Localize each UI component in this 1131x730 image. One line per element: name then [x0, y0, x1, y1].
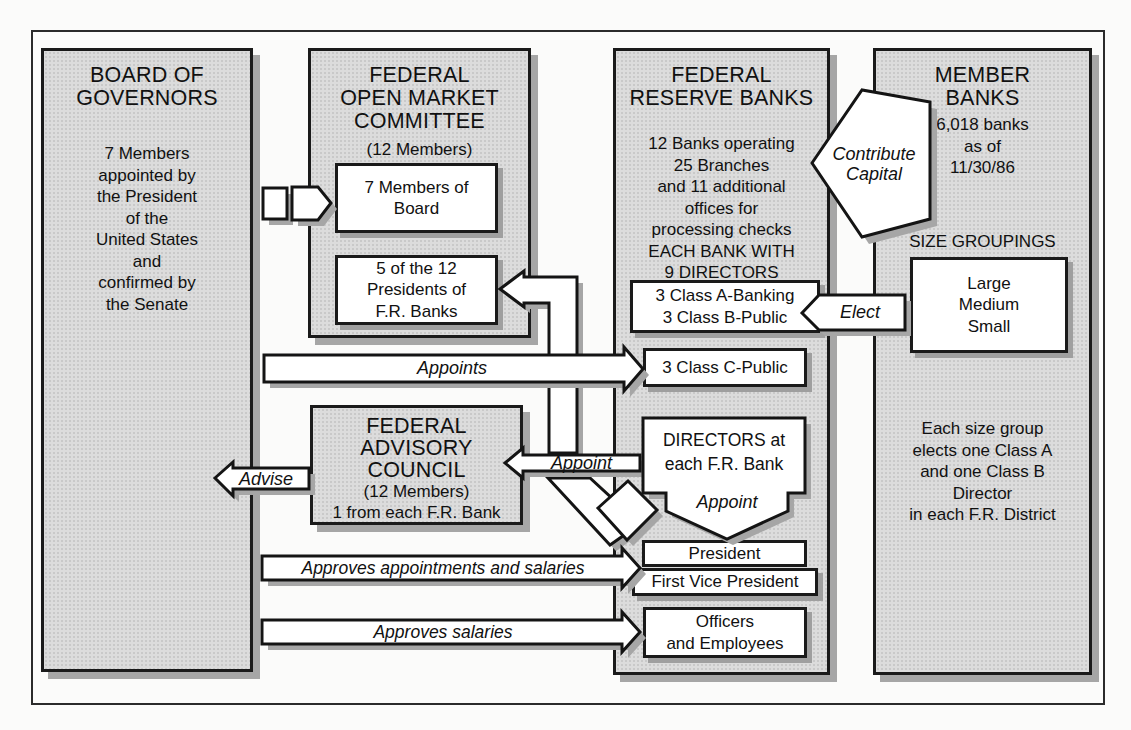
fomc-subtitle: (12 Members)	[311, 139, 528, 160]
fomc-members-box: 7 Members of Board	[335, 163, 498, 233]
size-groupings-box: Large Medium Small	[910, 257, 1068, 353]
fomc-title: FEDERAL OPEN MARKET COMMITTEE	[311, 64, 528, 133]
federal-advisory-council-subtitle: (12 Members)	[313, 481, 520, 502]
class-ab-directors-box: 3 Class A-Banking 3 Class B-Public	[630, 280, 820, 333]
directors-appoint-label: Appoint	[663, 492, 791, 512]
appoint-fac-label: Appoint	[523, 453, 640, 473]
president-box: President	[642, 540, 807, 567]
federal-reserve-banks-text: 12 Banks operating 25 Branches and 11 ad…	[616, 133, 827, 284]
member-banks-footer: Each size group elects one Class A and o…	[876, 418, 1089, 526]
class-c-directors-box: 3 Class C-Public	[643, 348, 807, 387]
board-of-governors-box: BOARD OF GOVERNORS 7 Members appointed b…	[41, 48, 253, 672]
member-banks-title: MEMBER BANKS	[876, 64, 1089, 110]
approves-appointments-label: Approves appointments and salaries	[268, 558, 618, 578]
elect-label: Elect	[817, 302, 903, 322]
officers-employees-box: Officers and Employees	[643, 607, 807, 658]
federal-reserve-banks-title: FEDERAL RESERVE BANKS	[616, 64, 827, 110]
federal-reserve-system-diagram: BOARD OF GOVERNORS 7 Members appointed b…	[0, 0, 1131, 730]
federal-advisory-council-box: FEDERAL ADVISORY COUNCIL (12 Members) 1 …	[310, 405, 523, 525]
directors-box-text: DIRECTORS at each F.R. Bank	[645, 428, 803, 476]
federal-advisory-council-line: 1 from each F.R. Bank	[313, 502, 520, 523]
federal-advisory-council-title: FEDERAL ADVISORY COUNCIL	[313, 415, 520, 481]
size-groupings-label: SIZE GROUPINGS	[873, 232, 1092, 252]
approves-salaries-label: Approves salaries	[268, 622, 618, 642]
member-banks-box: MEMBER BANKS 6,018 banks as of 11/30/86	[873, 48, 1092, 675]
board-of-governors-title: BOARD OF GOVERNORS	[44, 64, 250, 110]
advise-label: Advise	[225, 469, 307, 489]
appoints-label: Appoints	[264, 358, 640, 378]
fomc-presidents-box: 5 of the 12 Presidents of F.R. Banks	[335, 255, 498, 325]
board-of-governors-text: 7 Members appointed by the President of …	[44, 143, 250, 315]
contribute-capital-label: Contribute Capital	[818, 144, 930, 184]
first-vice-president-box: First Vice President	[632, 568, 818, 596]
